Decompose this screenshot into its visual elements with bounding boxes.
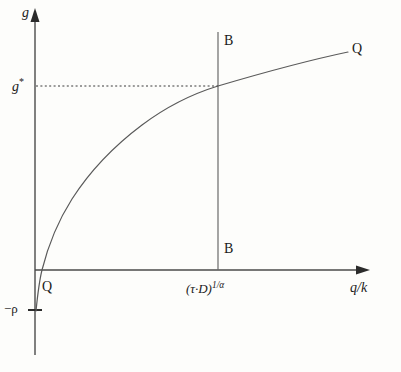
x-axis-arrowhead <box>356 266 370 275</box>
y-axis-label: g <box>22 6 29 20</box>
x-axis-tick-exponent: 1/α <box>212 280 224 290</box>
g-star-base: g <box>12 79 19 94</box>
y-axis-arrowhead <box>31 8 40 22</box>
g-star-label: g* <box>12 77 24 94</box>
x-axis-label: q/k <box>350 281 367 295</box>
bb-line-label-bottom: B <box>224 242 233 256</box>
growth-diagram: g g* −ρ Q Q B B (τ·D)1/α q/k <box>0 0 401 372</box>
qq-curve <box>36 52 348 311</box>
g-star-superscript: * <box>19 76 24 87</box>
diagram-canvas <box>0 0 401 372</box>
bb-line-label-top: B <box>224 34 233 48</box>
qq-curve-label-end: Q <box>352 42 362 56</box>
x-axis-tick-base: (τ·D) <box>186 281 212 296</box>
x-axis-tick-label: (τ·D)1/α <box>186 281 224 295</box>
neg-rho-label: −ρ <box>4 302 18 315</box>
qq-curve-label-origin: Q <box>42 280 52 294</box>
